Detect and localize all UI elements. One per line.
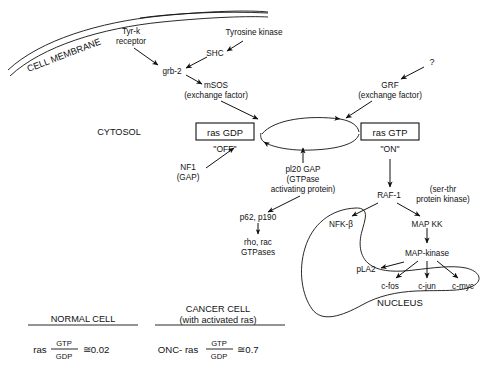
cancer-cell-heading-line2: (with activated ras) bbox=[179, 315, 256, 325]
arrow-p120gap-to-p62 bbox=[268, 196, 300, 212]
nucleus-label: NUCLEUS bbox=[377, 297, 423, 308]
tyrosine-kinase-label: Tyrosine kinase bbox=[226, 28, 283, 37]
p120gap-sublabel-1: (GTPase bbox=[287, 175, 320, 184]
normal-ratio-prefix: ras bbox=[33, 344, 47, 355]
ras-gdp-label: ras GDP bbox=[207, 127, 243, 138]
ser-thr-label-line2: protein kinase) bbox=[416, 195, 470, 204]
rho-rac-label: rho, rac bbox=[244, 238, 272, 247]
tyr-k-receptor-label-line1: Tyr-k bbox=[122, 27, 141, 36]
msos-sublabel: (exchange factor) bbox=[184, 91, 248, 100]
c-myc-label: c-myc bbox=[452, 282, 474, 291]
normal-ratio-denominator: GDP bbox=[56, 352, 72, 361]
grf-label: GRF bbox=[381, 81, 398, 90]
ras-pathway-diagram: CELL MEMBRANE Tyr-k receptor Tyrosine ki… bbox=[0, 0, 492, 376]
arrow-mapkinase-to-cmyc bbox=[437, 261, 458, 278]
pathway-canvas: CELL MEMBRANE Tyr-k receptor Tyrosine ki… bbox=[0, 0, 492, 376]
ras-gtp-label: ras GTP bbox=[373, 127, 408, 138]
cancer-ratio-value: ≅0.7 bbox=[237, 344, 258, 355]
normal-cell-heading: NORMAL CELL bbox=[51, 314, 116, 324]
arrow-question-to-grf bbox=[401, 67, 424, 79]
grf-sublabel: (exchange factor) bbox=[358, 91, 422, 100]
nf1-label: NF1 bbox=[180, 163, 196, 172]
nfkb-label: NFK-β bbox=[329, 220, 353, 229]
arrow-grb2-to-msos bbox=[186, 75, 202, 84]
ras-cycle-ellipse bbox=[261, 118, 359, 151]
shc-label: SHC bbox=[206, 49, 223, 58]
arrow-tyrosinekinase-to-shc bbox=[227, 41, 243, 51]
map-kk-label: MAP KK bbox=[412, 220, 443, 229]
ras-gtp-state-label: "ON" bbox=[381, 144, 400, 154]
arrow-receptor-to-grb2 bbox=[134, 48, 158, 65]
cancer-cell-heading-line1: CANCER CELL bbox=[186, 304, 250, 314]
pla2-label: pLA2 bbox=[356, 265, 376, 274]
arrow-msos-to-cycle bbox=[221, 101, 258, 119]
arrow-grf-to-cycle bbox=[346, 101, 372, 118]
normal-ratio-value: ≅0.02 bbox=[83, 344, 110, 355]
raf1-label: RAF-1 bbox=[377, 191, 401, 200]
cancer-ratio-numerator: GTP bbox=[211, 339, 227, 348]
cell-membrane-label: CELL MEMBRANE bbox=[26, 37, 103, 74]
p120gap-sublabel-2: activating protein) bbox=[271, 185, 336, 194]
cytosol-label: CYTOSOL bbox=[97, 127, 141, 137]
tyr-k-receptor-label-line2: receptor bbox=[116, 37, 146, 46]
p62-p190-label: p62, p190 bbox=[240, 213, 277, 222]
cancer-ratio-prefix: ONC- ras bbox=[158, 344, 199, 355]
rho-rac-sublabel: GTPases bbox=[241, 248, 275, 257]
map-kinase-label: MAP-kinase bbox=[405, 249, 450, 258]
ras-gdp-state-label: "OFF" bbox=[213, 144, 236, 154]
c-jun-label: c-jun bbox=[418, 282, 436, 291]
p120gap-label: pl20 GAP bbox=[285, 165, 321, 174]
nf1-sublabel: (GAP) bbox=[177, 173, 200, 182]
ser-thr-label-line1: (ser-thr bbox=[430, 185, 457, 194]
c-fos-label: c-fos bbox=[381, 282, 399, 291]
arrow-raf1-to-mapkk bbox=[397, 203, 420, 216]
msos-label: mSOS bbox=[204, 81, 229, 90]
arrow-shc-to-grb2 bbox=[186, 57, 207, 68]
normal-ratio-numerator: GTP bbox=[56, 339, 72, 348]
arrow-mapkinase-to-pla2 bbox=[381, 262, 404, 268]
question-mark-label: ? bbox=[429, 57, 434, 67]
grb2-label: grb-2 bbox=[162, 67, 182, 76]
cancer-ratio-denominator: GDP bbox=[211, 352, 227, 361]
